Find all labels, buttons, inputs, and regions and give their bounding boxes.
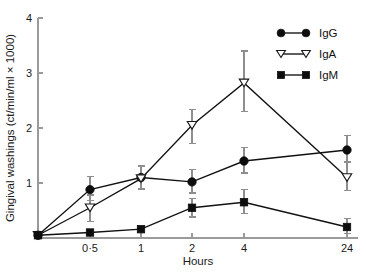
data-point-square bbox=[278, 72, 285, 79]
y-tick-label: 3 bbox=[26, 67, 32, 79]
y-tick-label: 1 bbox=[26, 177, 32, 189]
y-axis-group: 1234 bbox=[26, 12, 43, 238]
x-tick-label: 4 bbox=[241, 242, 247, 254]
data-point-square bbox=[240, 199, 247, 206]
y-axis-title: Gingival washings (ct/min/ml × 1000) bbox=[4, 34, 16, 222]
x-tick-label: 0·5 bbox=[82, 242, 98, 254]
chart-figure: 1234 0·512424 IgGIgAIgM Hours Gingival w… bbox=[0, 0, 366, 276]
y-tick-label: 4 bbox=[26, 12, 32, 24]
chart-legend: IgGIgAIgM bbox=[277, 27, 338, 81]
data-point-circle bbox=[277, 29, 285, 37]
legend-label: IgA bbox=[319, 48, 337, 60]
x-axis-ticks: 0·512424 bbox=[82, 233, 353, 254]
data-point-square bbox=[86, 229, 93, 236]
data-point-square bbox=[137, 226, 144, 233]
legend-item-igg: IgG bbox=[277, 27, 337, 39]
data-point-circle bbox=[240, 157, 248, 165]
data-point-square bbox=[188, 204, 195, 211]
data-point-triangle bbox=[85, 204, 94, 212]
data-point-circle bbox=[86, 185, 94, 193]
x-tick-label: 2 bbox=[189, 242, 195, 254]
data-point-square bbox=[303, 72, 310, 79]
line-chart-plot: 1234 0·512424 IgGIgAIgM Hours Gingival w… bbox=[0, 0, 366, 276]
x-axis-title: Hours bbox=[183, 255, 214, 267]
data-series-layer bbox=[33, 51, 351, 239]
y-tick-label: 2 bbox=[26, 122, 32, 134]
data-point-circle bbox=[302, 29, 310, 37]
legend-item-iga: IgA bbox=[277, 48, 337, 60]
series-igm bbox=[34, 199, 350, 239]
error-bars-igg bbox=[87, 136, 351, 201]
data-point-square bbox=[343, 223, 350, 230]
legend-label: IgM bbox=[319, 69, 338, 81]
legend-label: IgG bbox=[319, 27, 338, 39]
error-bars-iga bbox=[87, 51, 351, 222]
data-point-square bbox=[34, 232, 41, 239]
data-point-circle bbox=[188, 178, 196, 186]
x-tick-label: 1 bbox=[138, 242, 144, 254]
error-bars-igm bbox=[189, 190, 351, 234]
legend-item-igm: IgM bbox=[278, 69, 339, 81]
data-point-circle bbox=[343, 146, 351, 154]
data-point-triangle bbox=[342, 174, 351, 182]
y-axis-ticks: 1234 bbox=[26, 12, 43, 189]
x-tick-label: 24 bbox=[341, 242, 353, 254]
